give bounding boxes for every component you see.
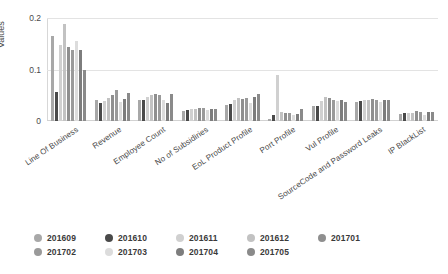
bar <box>407 113 410 121</box>
bar <box>210 109 213 121</box>
bar <box>123 99 126 121</box>
bar <box>79 50 82 121</box>
legend-item[interactable]: 201704 <box>176 245 241 259</box>
legend-swatch-icon <box>34 248 42 256</box>
bar <box>229 104 232 122</box>
bar <box>51 36 54 121</box>
bar <box>359 101 362 121</box>
bar <box>257 94 260 121</box>
x-tick-label: IP BlackList <box>387 125 428 156</box>
bar <box>206 110 209 121</box>
bar <box>371 99 374 121</box>
bar <box>142 100 145 121</box>
bar <box>399 114 402 121</box>
bar-group <box>221 18 264 121</box>
bar <box>403 113 406 121</box>
bar <box>158 95 161 121</box>
legend-swatch-icon <box>318 234 326 242</box>
bar <box>59 45 62 121</box>
legend-label: 201703 <box>118 247 147 257</box>
bar-group <box>177 18 220 121</box>
legend-item[interactable]: 201701 <box>318 231 383 245</box>
x-tick-label: SourceCode and Password Leaks <box>276 125 384 202</box>
bar <box>336 101 339 121</box>
bar <box>115 90 118 121</box>
legend-item[interactable]: 201609 <box>34 231 99 245</box>
x-tick-label: Line Of Business <box>23 125 79 167</box>
bar <box>138 100 141 121</box>
bar <box>272 115 275 121</box>
bar <box>383 100 386 121</box>
bar <box>55 92 58 121</box>
bar <box>103 101 106 121</box>
legend-item[interactable]: 201703 <box>105 245 170 259</box>
legend-item[interactable]: 201610 <box>105 231 170 245</box>
bar <box>237 98 240 121</box>
bar <box>292 115 295 121</box>
legend-item[interactable]: 201612 <box>247 231 312 245</box>
bar <box>253 97 256 121</box>
bar <box>67 47 70 121</box>
bar <box>198 108 201 121</box>
y-tick-label: 0 <box>15 116 41 126</box>
legend-label: 201702 <box>47 247 76 257</box>
bar <box>379 102 382 121</box>
bar-group <box>90 18 133 121</box>
bar <box>95 100 98 121</box>
bar <box>214 109 217 121</box>
plot-area <box>47 18 438 121</box>
bar <box>387 100 390 121</box>
bar <box>324 97 327 121</box>
bar <box>245 98 248 121</box>
bar <box>423 115 426 121</box>
legend-swatch-icon <box>176 248 184 256</box>
bar <box>75 41 78 121</box>
bar <box>344 102 347 121</box>
bar <box>146 97 149 121</box>
bar <box>427 112 430 121</box>
bar <box>411 113 414 121</box>
bar <box>367 100 370 121</box>
bar <box>280 112 283 121</box>
legend-label: 201705 <box>260 247 289 257</box>
x-tick-label: Employee Count <box>111 125 166 166</box>
legend-item[interactable]: 201705 <box>247 245 312 259</box>
bar <box>63 24 66 121</box>
bar <box>225 105 228 121</box>
bar <box>71 50 74 121</box>
bar <box>83 70 86 122</box>
bar <box>202 108 205 121</box>
bar <box>241 99 244 121</box>
legend-label: 201612 <box>260 233 289 243</box>
legend-label: 201701 <box>331 233 360 243</box>
legend-label: 201609 <box>47 233 76 243</box>
bar <box>99 103 102 121</box>
bar <box>150 95 153 121</box>
bar <box>276 75 279 121</box>
bar <box>363 100 366 121</box>
bar <box>415 111 418 121</box>
bar <box>288 113 291 121</box>
bar <box>194 109 197 121</box>
legend-label: 201611 <box>189 233 218 243</box>
bar <box>182 111 185 121</box>
legend-swatch-icon <box>176 234 184 242</box>
bar <box>320 101 323 121</box>
bar <box>328 98 331 121</box>
legend-label: 201610 <box>118 233 147 243</box>
bar <box>355 102 358 121</box>
legend-label: 201704 <box>189 247 218 257</box>
bar <box>340 100 343 121</box>
x-tick-label: Port Profile <box>258 125 297 155</box>
legend-swatch-icon <box>34 234 42 242</box>
bar <box>296 114 299 121</box>
legend-item[interactable]: 201611 <box>176 231 241 245</box>
bar <box>186 110 189 121</box>
legend-swatch-icon <box>105 248 113 256</box>
bar <box>249 103 252 121</box>
y-tick-label: 0.1 <box>15 65 41 75</box>
y-axis-label: Values <box>0 21 6 48</box>
legend-item[interactable]: 201702 <box>34 245 99 259</box>
bar <box>316 106 319 121</box>
legend-swatch-icon <box>247 248 255 256</box>
